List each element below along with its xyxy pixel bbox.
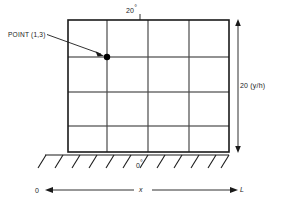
bottom-boundary-label: 0°	[136, 162, 143, 169]
point-annotation-label: POINT (1,3)	[8, 31, 46, 38]
height-dimension-label: 20 (y/h)	[240, 82, 265, 89]
hatch-strokes	[38, 155, 229, 168]
boundary-hatching	[38, 155, 229, 168]
point-marker	[104, 54, 110, 60]
vertical-gridlines	[107, 20, 189, 152]
x-axis-arrowhead-left	[45, 187, 53, 193]
x-axis-name-label: x	[139, 186, 143, 193]
dimension-arrowhead-bottom	[235, 146, 241, 153]
x-axis-arrowhead-right	[230, 187, 238, 193]
degree-icon-bottom: °	[140, 159, 143, 166]
top-boundary-value: 20	[126, 7, 134, 14]
x-axis-origin-label: 0	[35, 187, 39, 194]
point-leader-line	[47, 35, 104, 57]
x-axis-end-label: L	[240, 186, 244, 193]
dimension-arrowhead-top	[235, 19, 241, 26]
degree-icon: °	[134, 4, 137, 11]
figure-container: POINT (1,3) 20° 20 (y/h) 0° 0 x L	[0, 0, 286, 211]
top-boundary-label: 20°	[126, 7, 137, 14]
leader-arrowhead	[96, 51, 105, 56]
